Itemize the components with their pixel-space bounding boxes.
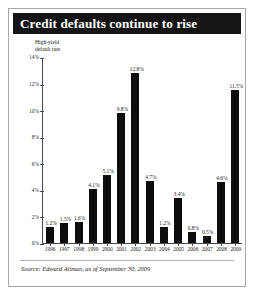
bar	[174, 198, 182, 243]
figure-inner: Credit defaults continue to rise High-yi…	[13, 13, 241, 282]
bar	[160, 227, 168, 243]
bar	[46, 227, 54, 243]
bar	[188, 232, 196, 243]
bar-slot: 1.2%	[157, 58, 171, 243]
bar-value-label: 1.2%	[46, 220, 57, 226]
bar-series: 1.2%1.5%1.6%4.1%5.1%9.8%12.8%4.7%1.2%3.4…	[43, 58, 242, 243]
bar	[103, 175, 111, 243]
chart-title-bar: Credit defaults continue to rise	[13, 13, 241, 34]
bar	[217, 182, 225, 243]
bar-value-label: 3.4%	[174, 191, 185, 197]
bar	[75, 222, 83, 243]
y-tick-label: 14%	[29, 54, 39, 60]
x-axis-label: 1997	[57, 246, 71, 252]
bar-slot: 4.1%	[86, 58, 100, 243]
y-tick-label: 10%	[29, 108, 39, 114]
bar-slot: 4.6%	[214, 58, 228, 243]
y-tick-label: 2%	[32, 214, 39, 220]
x-axis-label: 2005	[172, 246, 186, 252]
bar	[60, 223, 68, 243]
x-axis-label: 1998	[72, 246, 86, 252]
x-axis-label: 2009	[229, 246, 243, 252]
x-axis-label: 1996	[43, 246, 57, 252]
x-axis-label: 2008	[214, 246, 228, 252]
bar-slot: 1.5%	[57, 58, 71, 243]
x-axis-label: 2004	[157, 246, 171, 252]
bar-slot: 11.5%	[228, 58, 242, 243]
x-axis-label: 2002	[129, 246, 143, 252]
y-tick: 0%	[42, 244, 43, 245]
chart-figure: Credit defaults continue to rise High-yi…	[8, 8, 246, 287]
y-axis-label-line2: default rate	[35, 46, 60, 53]
bar-value-label: 0.5%	[202, 229, 213, 235]
bar-slot: 0.5%	[199, 58, 213, 243]
plot-area: 0%2%4%6%8%10%12%14% 1.2%1.5%1.6%4.1%5.1%…	[42, 58, 242, 244]
page-title: Credit defaults continue to rise	[20, 16, 197, 32]
bar-value-label: 1.6%	[74, 215, 85, 221]
bar-value-label: 9.8%	[117, 106, 128, 112]
y-axis-label: High-yield default rate	[35, 39, 60, 52]
y-tick-mark	[40, 244, 44, 245]
bar-value-label: 1.5%	[60, 216, 71, 222]
bar-value-label: 1.2%	[159, 220, 170, 226]
bar	[89, 189, 97, 243]
bar	[231, 90, 239, 243]
footer-divider	[20, 260, 234, 261]
y-tick-label: 8%	[32, 134, 39, 140]
bar-value-label: 4.6%	[216, 175, 227, 181]
x-axis-labels: 1996199719981999200020012002200320042005…	[43, 246, 243, 252]
bar	[203, 236, 211, 243]
bar	[131, 73, 139, 243]
x-axis-label: 2006	[186, 246, 200, 252]
bar-value-label: 5.1%	[102, 168, 113, 174]
bar-value-label: 4.1%	[88, 182, 99, 188]
y-axis-label-line1: High-yield	[35, 39, 60, 46]
y-tick-label: 12%	[29, 81, 39, 87]
x-axis-label: 2007	[200, 246, 214, 252]
bar-slot: 12.8%	[128, 58, 142, 243]
bar-slot: 3.4%	[171, 58, 185, 243]
bar-value-label: 11.5%	[229, 83, 243, 89]
y-tick-label: 4%	[32, 187, 39, 193]
x-axis-label: 1999	[86, 246, 100, 252]
bar-slot: 0.8%	[185, 58, 199, 243]
y-tick-label: 6%	[32, 161, 39, 167]
bar-slot: 1.2%	[43, 58, 57, 243]
bar-value-label: 0.8%	[188, 225, 199, 231]
bar-slot: 4.7%	[143, 58, 157, 243]
x-axis-label: 2001	[114, 246, 128, 252]
bar	[146, 181, 154, 243]
source-note: Source: Edward Altman, as of September 3…	[21, 265, 150, 272]
bar-slot: 5.1%	[100, 58, 114, 243]
bar	[117, 113, 125, 243]
bar-slot: 1.6%	[71, 58, 85, 243]
x-axis-label: 2000	[100, 246, 114, 252]
x-axis-label: 2003	[143, 246, 157, 252]
x-axis-line	[42, 243, 242, 244]
y-tick-label: 0%	[32, 240, 39, 246]
bar-value-label: 4.7%	[145, 174, 156, 180]
bar-slot: 9.8%	[114, 58, 128, 243]
